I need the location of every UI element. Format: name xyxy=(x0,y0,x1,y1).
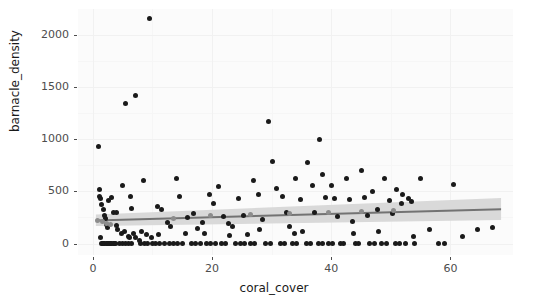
data-point xyxy=(216,184,221,189)
x-tick-mark xyxy=(331,257,332,260)
plot-panel xyxy=(78,9,513,255)
data-point xyxy=(223,241,228,246)
data-point xyxy=(198,241,203,246)
data-point xyxy=(356,241,361,246)
data-point xyxy=(200,220,205,225)
y-tick-mark xyxy=(74,191,77,192)
data-point xyxy=(359,168,364,173)
data-point xyxy=(280,194,285,199)
data-point xyxy=(191,211,196,216)
data-point xyxy=(330,241,335,246)
data-point xyxy=(292,231,297,236)
data-point xyxy=(98,235,103,240)
data-point xyxy=(320,241,325,246)
data-point xyxy=(122,229,127,234)
data-point xyxy=(451,182,456,187)
y-tick-label: 0 xyxy=(62,237,69,250)
data-point xyxy=(312,210,317,215)
data-point xyxy=(442,241,447,246)
data-point xyxy=(310,183,315,188)
data-point xyxy=(384,241,389,246)
data-point xyxy=(350,219,355,224)
data-point xyxy=(329,183,334,188)
fit-marker-point xyxy=(108,222,113,227)
data-point xyxy=(305,160,310,165)
data-point xyxy=(129,206,134,211)
y-tick-label: 500 xyxy=(48,184,69,197)
data-point xyxy=(149,235,154,240)
data-point xyxy=(436,241,441,246)
data-point xyxy=(168,224,173,229)
fit-marker-point xyxy=(171,216,176,221)
y-axis-title-text: barnacle_density xyxy=(8,30,22,132)
data-point xyxy=(207,192,212,197)
y-tick-label: 2000 xyxy=(41,28,69,41)
data-point xyxy=(183,231,188,236)
data-point xyxy=(213,241,218,246)
x-tick-label: 40 xyxy=(311,262,351,275)
data-point xyxy=(460,234,465,239)
data-point xyxy=(490,225,495,230)
fit-line xyxy=(96,209,501,220)
data-point xyxy=(97,187,102,192)
fit-marker-point xyxy=(359,209,364,214)
data-point xyxy=(362,195,367,200)
data-point xyxy=(341,241,346,246)
x-tick-label: 20 xyxy=(192,262,232,275)
data-point xyxy=(372,241,377,246)
x-tick-mark xyxy=(212,257,213,260)
x-tick-label: 60 xyxy=(430,262,470,275)
x-tick-mark xyxy=(450,257,451,260)
data-point xyxy=(128,194,133,199)
y-tick-mark xyxy=(74,87,77,88)
data-point xyxy=(101,207,106,212)
regression-line xyxy=(78,9,513,255)
data-point xyxy=(475,227,480,232)
y-tick-mark xyxy=(74,35,77,36)
data-point xyxy=(268,241,273,246)
data-point xyxy=(114,210,119,215)
data-point xyxy=(411,234,416,239)
data-point xyxy=(387,198,392,203)
data-point xyxy=(109,195,114,200)
y-tick-label: 1000 xyxy=(41,132,69,145)
data-point xyxy=(344,176,349,181)
data-point xyxy=(159,207,164,212)
data-point xyxy=(323,195,328,200)
y-tick-label: 1500 xyxy=(41,80,69,93)
x-tick-label: 0 xyxy=(73,262,113,275)
data-point xyxy=(427,227,432,232)
data-point xyxy=(317,137,322,142)
y-tick-mark xyxy=(74,244,77,245)
data-point xyxy=(409,199,414,204)
y-tick-mark xyxy=(74,139,77,140)
data-point xyxy=(365,213,370,218)
data-point xyxy=(195,226,200,231)
data-point xyxy=(347,197,352,202)
data-point xyxy=(375,207,380,212)
data-point xyxy=(180,241,185,246)
data-point xyxy=(274,186,279,191)
data-point xyxy=(308,241,313,246)
x-axis-title-text: coral_cover xyxy=(0,281,548,295)
x-tick-mark xyxy=(93,257,94,260)
data-point xyxy=(156,232,161,237)
data-point xyxy=(185,215,190,220)
scatter-plot-figure: 0500100015002000 0204060 barnacle_densit… xyxy=(0,0,548,304)
data-point xyxy=(256,192,261,197)
data-point xyxy=(147,16,152,21)
